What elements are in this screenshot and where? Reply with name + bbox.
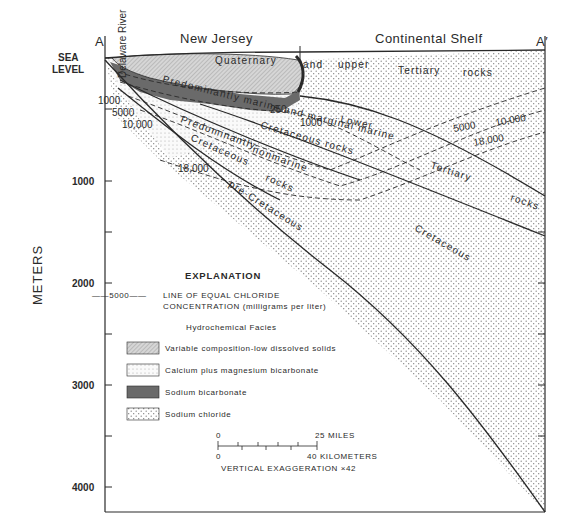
isochlor-1000-mid: 1000 bbox=[300, 117, 323, 128]
isochlor-5000-left: 5000 bbox=[112, 107, 135, 118]
scale-zero-km: 0 bbox=[216, 452, 221, 461]
explanation-title: EXPLANATION bbox=[185, 270, 261, 281]
isochlor-10000-left: 10,000 bbox=[122, 119, 153, 130]
isochlor-desc-1: LINE OF EQUAL CHLORIDE bbox=[163, 291, 280, 300]
and-label: and bbox=[303, 59, 323, 70]
facies-label-na-chloride: Sodium chloride bbox=[165, 410, 231, 419]
facies-title: Hydrochemical Facies bbox=[186, 323, 277, 332]
depth-axis-title: METERS bbox=[30, 245, 45, 305]
scale-bar: 0 25 MILES 0 40 KILOMETERS VERTICAL EXAG… bbox=[216, 431, 378, 473]
facies-label-ca-mg: Calcium plus magnesium bicarbonate bbox=[165, 366, 319, 375]
isochlor-1000-left: 1000 bbox=[98, 95, 121, 106]
sea-level-label-2: LEVEL bbox=[52, 64, 84, 75]
isochlor-desc-2: CONCENTRATION (milligrams per liter) bbox=[163, 302, 326, 311]
depth-2000: 2000 bbox=[72, 278, 95, 289]
facies-swatch-na-bicarb bbox=[127, 386, 159, 398]
section-end-a-prime: A′ bbox=[536, 34, 548, 49]
depth-3000: 3000 bbox=[72, 380, 95, 391]
facies-swatch-ca-mg bbox=[127, 364, 159, 376]
facies-label-na-bicarb: Sodium bicarbonate bbox=[165, 388, 247, 397]
cross-section-diagram: A A′ Delaware River New Jersey Continent… bbox=[0, 0, 575, 517]
depth-1000: 1000 bbox=[72, 176, 95, 187]
scale-miles: 25 MILES bbox=[315, 431, 355, 440]
isochlor-sample: ——5000—— bbox=[92, 291, 147, 300]
facies-swatch-variable bbox=[127, 342, 159, 354]
facies-swatch-na-chloride bbox=[127, 408, 159, 420]
scale-zero-miles: 0 bbox=[216, 431, 221, 440]
scale-km: 40 KILOMETERS bbox=[307, 452, 378, 461]
isochlor-250: 250 bbox=[270, 104, 287, 115]
tertiary-top-label: Tertiary bbox=[398, 65, 440, 76]
delaware-river-label-1: Delaware River bbox=[117, 9, 128, 78]
region-continental-shelf: Continental Shelf bbox=[375, 31, 483, 46]
explanation-legend: EXPLANATION ——5000—— LINE OF EQUAL CHLOR… bbox=[92, 270, 336, 420]
facies-label-variable: Variable composition-low dissolved solid… bbox=[165, 344, 336, 353]
isochlor-18000-cret: 18,000 bbox=[178, 163, 209, 174]
sea-level-label-1: SEA bbox=[58, 52, 79, 63]
region-new-jersey: New Jersey bbox=[180, 31, 253, 46]
vertical-exaggeration: VERTICAL EXAGGERATION ×42 bbox=[221, 464, 356, 473]
rocks-top-label: rocks bbox=[463, 67, 493, 78]
quaternary-label: Quaternary bbox=[215, 55, 277, 66]
depth-4000: 4000 bbox=[72, 482, 95, 493]
section-end-a: A bbox=[95, 34, 104, 49]
upper-label: upper bbox=[338, 59, 370, 70]
